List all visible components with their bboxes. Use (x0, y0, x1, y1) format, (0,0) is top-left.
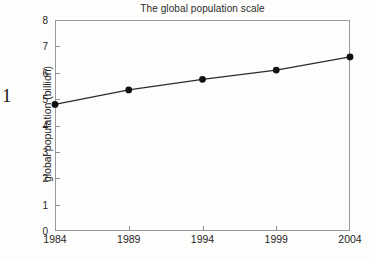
data-point-marker (347, 54, 354, 61)
data-point-marker (199, 76, 206, 83)
data-point-marker (273, 67, 280, 74)
data-point-markers (52, 54, 354, 108)
data-point-marker (52, 101, 59, 108)
chart-data-layer (0, 0, 375, 259)
line-chart-figure: The global population scale global popul… (0, 0, 375, 259)
data-point-marker (125, 86, 132, 93)
